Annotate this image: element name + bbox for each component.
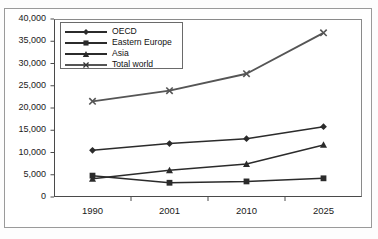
chart-legend: OECD Eastern Europe Asia Total world [60, 22, 183, 69]
legend-label: Eastern Europe [112, 37, 172, 48]
legend-label: Total world [112, 59, 153, 70]
chart-render-layer [0, 0, 378, 239]
legend-marker-diamond-icon [65, 26, 107, 37]
y-axis-tick-label: 35,000 [0, 36, 46, 45]
y-axis-tick-label: 15,000 [0, 125, 46, 134]
legend-item-total-world: Total world [65, 59, 182, 70]
chart-screenshot: 05,00010,00015,00020,00025,00030,00035,0… [0, 0, 378, 239]
legend-marker-cross-icon [65, 59, 107, 70]
y-axis-tick-label: 40,000 [0, 14, 46, 23]
y-axis-tick-label: 20,000 [0, 103, 46, 112]
legend-item-oecd: OECD [65, 26, 182, 37]
y-axis-tick-label: 25,000 [0, 81, 46, 90]
legend-marker-triangle-icon [65, 48, 107, 59]
x-axis-tick-label: 2010 [217, 205, 277, 216]
legend-label: Asia [112, 48, 129, 59]
x-axis-tick-label: 2025 [294, 205, 354, 216]
legend-marker-square-icon [65, 37, 107, 48]
x-axis-tick-label: 1990 [63, 205, 123, 216]
legend-item-eastern-europe: Eastern Europe [65, 37, 182, 48]
y-axis-tick-label: 10,000 [0, 148, 46, 157]
y-axis-tick-label: 0 [0, 192, 46, 201]
x-axis-tick-label: 2001 [140, 205, 200, 216]
legend-item-asia: Asia [65, 48, 182, 59]
y-axis-tick-label: 30,000 [0, 59, 46, 68]
series-oecd [89, 123, 327, 153]
legend-label: OECD [112, 26, 137, 37]
y-axis-tick-label: 5,000 [0, 170, 46, 179]
